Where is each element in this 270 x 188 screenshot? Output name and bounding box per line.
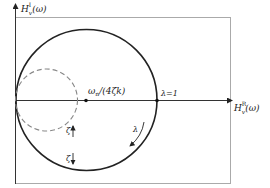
lambda-one-label: λ=1 bbox=[161, 90, 178, 98]
zeta-down-label: ζ bbox=[66, 155, 70, 163]
lambda-one-point bbox=[155, 99, 159, 103]
center-label: ωn/(4ζk) bbox=[88, 87, 125, 96]
nyquist-diagram bbox=[0, 0, 270, 188]
x-axis-label: HRv(ω) bbox=[234, 104, 260, 113]
zeta-up-label: ζ bbox=[66, 127, 70, 135]
y-axis-label: HIv(ω) bbox=[21, 5, 47, 14]
lambda-label: λ bbox=[133, 126, 138, 134]
center-point bbox=[84, 99, 88, 103]
